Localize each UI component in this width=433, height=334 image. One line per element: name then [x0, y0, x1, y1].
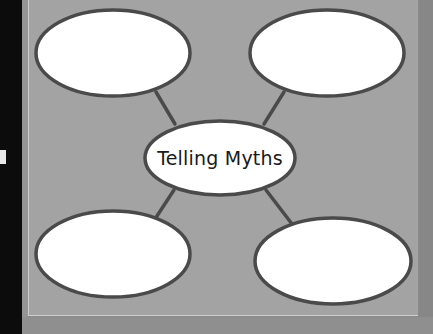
connector-top-right: [264, 92, 284, 124]
node-bottom-left[interactable]: [36, 211, 190, 297]
node-top-right[interactable]: [250, 10, 404, 96]
connector-top-left: [156, 92, 175, 124]
connector-bottom-right: [266, 190, 292, 224]
center-node-label: Telling Myths: [144, 138, 296, 178]
connector-bottom-left: [155, 190, 174, 219]
node-top-left[interactable]: [36, 10, 190, 96]
node-bottom-right[interactable]: [255, 218, 411, 304]
